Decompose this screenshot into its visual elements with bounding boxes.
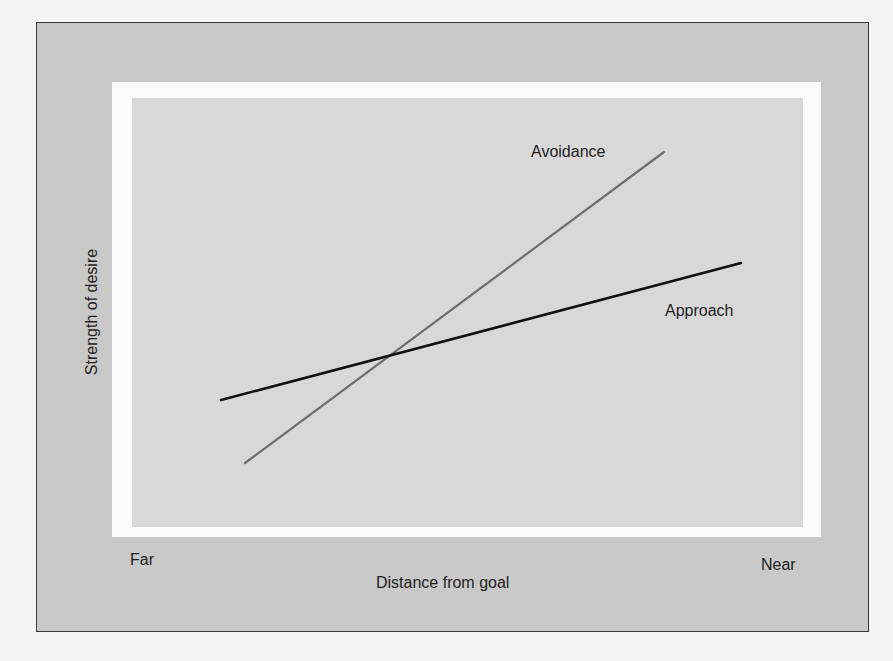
approach-line — [221, 263, 741, 400]
avoidance-label: Avoidance — [531, 143, 605, 161]
x-axis-label: Distance from goal — [376, 574, 509, 592]
avoidance-line — [245, 152, 664, 463]
x-tick-near: Near — [761, 556, 796, 574]
approach-label: Approach — [665, 302, 734, 320]
y-axis-label: Strength of desire — [83, 249, 101, 375]
x-tick-far: Far — [130, 551, 154, 569]
